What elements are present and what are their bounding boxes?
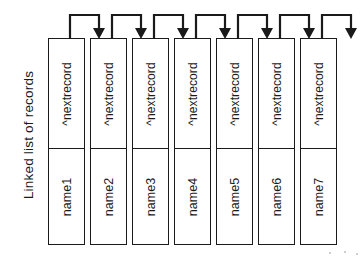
record-1-name-label: name1 bbox=[60, 177, 74, 216]
scan-artifact bbox=[344, 251, 346, 253]
record-7-next-label: ^nextrecord bbox=[312, 62, 326, 125]
record-7-name-label: name7 bbox=[312, 177, 326, 216]
record-box-3: ^nextrecord name3 bbox=[132, 38, 169, 245]
record-box-5: ^nextrecord name5 bbox=[216, 38, 253, 245]
record-3-name-label: name3 bbox=[144, 177, 158, 216]
record-6-next-cell: ^nextrecord bbox=[259, 39, 294, 149]
scan-artifact bbox=[329, 252, 331, 254]
record-4-next-cell: ^nextrecord bbox=[175, 39, 210, 149]
record-box-4: ^nextrecord name4 bbox=[174, 38, 211, 245]
record-6-name-cell: name6 bbox=[259, 149, 294, 244]
record-box-2: ^nextrecord name2 bbox=[90, 38, 127, 245]
scan-artifact bbox=[356, 253, 358, 255]
linked-list-diagram: Linked list of records ^nextrecord name1… bbox=[0, 0, 362, 270]
record-6-next-label: ^nextrecord bbox=[270, 62, 284, 125]
record-box-1: ^nextrecord name1 bbox=[48, 38, 85, 245]
record-4-name-label: name4 bbox=[186, 177, 200, 216]
record-1-next-cell: ^nextrecord bbox=[49, 39, 84, 149]
record-7-name-cell: name7 bbox=[301, 149, 336, 244]
record-7-next-cell: ^nextrecord bbox=[301, 39, 336, 149]
record-6-name-label: name6 bbox=[270, 177, 284, 216]
record-2-next-cell: ^nextrecord bbox=[91, 39, 126, 149]
record-4-name-cell: name4 bbox=[175, 149, 210, 244]
record-3-next-label: ^nextrecord bbox=[144, 62, 158, 125]
record-5-name-cell: name5 bbox=[217, 149, 252, 244]
record-2-name-label: name2 bbox=[102, 177, 116, 216]
record-1-name-cell: name1 bbox=[49, 149, 84, 244]
record-5-name-label: name5 bbox=[228, 177, 242, 216]
record-1-next-label: ^nextrecord bbox=[60, 62, 74, 125]
record-3-next-cell: ^nextrecord bbox=[133, 39, 168, 149]
record-5-next-label: ^nextrecord bbox=[228, 62, 242, 125]
record-box-7: ^nextrecord name7 bbox=[300, 38, 337, 245]
record-box-6: ^nextrecord name6 bbox=[258, 38, 295, 245]
record-2-name-cell: name2 bbox=[91, 149, 126, 244]
record-boxes-container: ^nextrecord name1 ^nextrecord name2 ^nex… bbox=[0, 0, 362, 270]
record-5-next-cell: ^nextrecord bbox=[217, 39, 252, 149]
record-2-next-label: ^nextrecord bbox=[102, 62, 116, 125]
record-4-next-label: ^nextrecord bbox=[186, 62, 200, 125]
record-3-name-cell: name3 bbox=[133, 149, 168, 244]
